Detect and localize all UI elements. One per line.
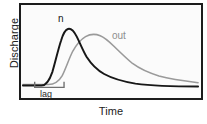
series-label-out: out — [112, 30, 126, 41]
x-axis-label: Time — [19, 105, 203, 117]
hydrograph-figure: Discharge n out lag Time — [0, 0, 207, 124]
lag-bracket-path — [35, 82, 64, 88]
lag-label: lag — [40, 89, 52, 99]
plot-area: n out lag — [19, 3, 203, 100]
lag-bracket — [21, 5, 201, 98]
series-label-n: n — [58, 13, 64, 24]
